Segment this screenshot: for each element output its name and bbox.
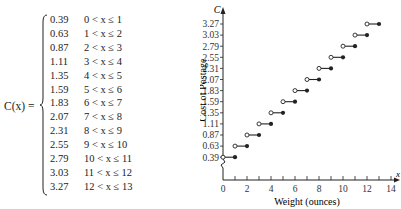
closed-endpoint-icon xyxy=(281,111,285,115)
y-tick-label: 3.27 xyxy=(202,19,219,29)
x-tick-label: 14 xyxy=(386,184,396,194)
open-endpoint-icon xyxy=(329,55,333,59)
case-value: 1.59 xyxy=(50,84,80,96)
closed-endpoint-icon xyxy=(233,155,237,159)
x-axis-label: Weight (ounces) xyxy=(274,196,340,208)
postage-step-chart: Cx024681012140.390.630.871.111.351.591.8… xyxy=(200,0,401,209)
open-endpoint-icon xyxy=(353,33,357,37)
case-condition: 2 < x ≤ 3 xyxy=(84,42,164,54)
case-value: 0.63 xyxy=(50,28,80,40)
open-endpoint-icon xyxy=(233,144,237,148)
case-condition: 5 < x ≤ 6 xyxy=(84,84,164,96)
case-value: 2.55 xyxy=(50,139,80,151)
case-condition: 7 < x ≤ 8 xyxy=(84,111,164,123)
closed-endpoint-icon xyxy=(257,133,261,137)
x-tick-label: 2 xyxy=(245,184,250,194)
x-tick-label: 6 xyxy=(293,184,298,194)
y-axis-break-icon xyxy=(221,159,225,168)
x-axis-letter: x xyxy=(395,169,400,179)
y-tick-label: 0.63 xyxy=(202,141,219,151)
open-endpoint-icon xyxy=(305,78,309,82)
closed-endpoint-icon xyxy=(329,66,333,70)
formula-lhs: C(x) = xyxy=(4,100,34,112)
case-value: 0.87 xyxy=(50,42,80,54)
x-tick-label: 4 xyxy=(269,184,274,194)
closed-endpoint-icon xyxy=(377,22,381,26)
case-condition: 12 < x ≤ 13 xyxy=(84,181,164,193)
closed-endpoint-icon xyxy=(305,89,309,93)
case-condition: 10 < x ≤ 11 xyxy=(84,153,164,165)
case-value: 1.83 xyxy=(50,97,80,109)
y-tick-label: 0.87 xyxy=(202,130,219,140)
closed-endpoint-icon xyxy=(293,100,297,104)
y-tick-label: 2.79 xyxy=(202,42,219,52)
case-value: 1.11 xyxy=(50,56,80,68)
case-condition: 6 < x ≤ 7 xyxy=(84,97,164,109)
case-condition: 8 < x ≤ 9 xyxy=(84,125,164,137)
open-endpoint-icon xyxy=(257,122,261,126)
open-endpoint-icon xyxy=(341,44,345,48)
case-condition: 9 < x ≤ 10 xyxy=(84,139,164,151)
case-condition: 1 < x ≤ 2 xyxy=(84,28,164,40)
closed-endpoint-icon xyxy=(341,55,345,59)
open-endpoint-icon xyxy=(245,133,249,137)
x-tick-label: 10 xyxy=(338,184,348,194)
closed-endpoint-icon xyxy=(317,77,321,81)
open-endpoint-icon xyxy=(281,100,285,104)
chart-svg: Cx024681012140.390.630.871.111.351.591.8… xyxy=(200,0,401,209)
case-value: 1.35 xyxy=(50,70,80,82)
y-axis-label: Cost of Postage xyxy=(200,58,208,121)
left-brace xyxy=(40,14,48,196)
case-value: 2.31 xyxy=(50,125,80,137)
piecewise-formula: C(x) = 0.390 < x ≤ 10.631 < x ≤ 20.872 <… xyxy=(0,0,200,209)
x-tick-label: 8 xyxy=(317,184,322,194)
case-value: 2.07 xyxy=(50,111,80,123)
x-tick-label: 0 xyxy=(221,184,226,194)
case-value: 3.27 xyxy=(50,181,80,193)
case-value: 0.39 xyxy=(50,14,80,26)
y-axis-letter: C xyxy=(214,4,221,15)
open-endpoint-icon xyxy=(365,22,369,26)
closed-endpoint-icon xyxy=(269,122,273,126)
y-tick-label: 3.03 xyxy=(202,30,219,40)
case-condition: 3 < x ≤ 4 xyxy=(84,56,164,68)
closed-endpoint-icon xyxy=(245,144,249,148)
closed-endpoint-icon xyxy=(353,44,357,48)
open-endpoint-icon xyxy=(317,66,321,70)
case-condition: 4 < x ≤ 5 xyxy=(84,70,164,82)
case-value: 2.79 xyxy=(50,153,80,165)
case-condition: 0 < x ≤ 1 xyxy=(84,14,164,26)
case-value: 3.03 xyxy=(50,167,80,179)
y-axis-arrow-icon xyxy=(221,7,226,14)
open-endpoint-icon xyxy=(221,155,225,159)
closed-endpoint-icon xyxy=(365,33,369,37)
y-tick-label: 0.39 xyxy=(202,153,219,163)
open-endpoint-icon xyxy=(293,89,297,93)
open-endpoint-icon xyxy=(269,111,273,115)
x-tick-label: 12 xyxy=(362,184,372,194)
case-condition: 11 < x ≤ 12 xyxy=(84,167,164,179)
